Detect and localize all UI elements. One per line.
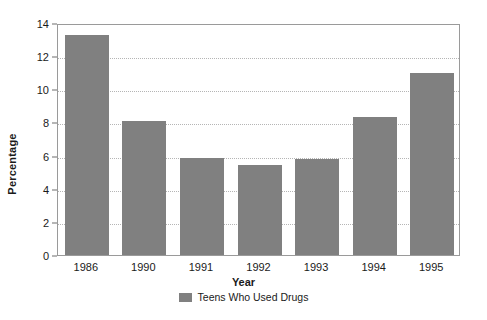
bar (295, 159, 339, 255)
x-axis-tick-label: 1993 (304, 261, 328, 273)
y-axis-tick-label: 8 (43, 117, 49, 129)
x-axis-tick-label: 1986 (74, 261, 98, 273)
x-axis-title: Year (0, 276, 487, 288)
y-axis-tick-label: 12 (37, 51, 49, 63)
y-axis-tick-label: 2 (43, 217, 49, 229)
y-axis-tick-label: 0 (43, 250, 49, 262)
bar (65, 35, 109, 255)
bar (410, 73, 454, 255)
y-axis-tick-label: 4 (43, 184, 49, 196)
x-axis-tick-label: 1994 (361, 261, 385, 273)
y-axis-title: Percentage (6, 133, 18, 194)
bar (353, 117, 397, 255)
bar (122, 121, 166, 255)
bar (180, 158, 224, 255)
y-axis-tick-label: 10 (37, 84, 49, 96)
bar (238, 165, 282, 255)
legend-swatch (179, 293, 192, 302)
bar-chart: Percentage 02468101214 19861990199119921… (0, 0, 487, 320)
plot-area (57, 24, 460, 256)
y-axis-tick-label: 14 (37, 18, 49, 30)
x-axis-tick-label: 1995 (419, 261, 443, 273)
legend-label: Teens Who Used Drugs (198, 291, 309, 303)
x-axis: 1986199019911992199319941995 (57, 258, 460, 278)
y-axis: Percentage 02468101214 (0, 24, 57, 256)
x-axis-tick-label: 1990 (131, 261, 155, 273)
bars-layer (58, 25, 459, 255)
y-axis-tick-label: 6 (43, 151, 49, 163)
legend: Teens Who Used Drugs (0, 291, 487, 303)
x-axis-tick-label: 1991 (189, 261, 213, 273)
x-axis-tick-label: 1992 (246, 261, 270, 273)
